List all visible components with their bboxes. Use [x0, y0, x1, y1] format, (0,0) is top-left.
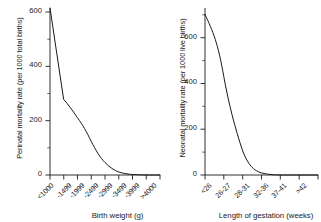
- data-line-perinatal-mortality: [50, 8, 160, 175]
- y-tick-label-left: 400: [22, 60, 42, 69]
- y-tick-label-left: 200: [22, 115, 42, 124]
- y-tick-label-right: 600: [177, 32, 197, 41]
- chart-panel-gestation: Neonatal mortality rate (per 1000 live b…: [163, 0, 321, 222]
- y-tick-label-left: 600: [22, 6, 42, 15]
- data-line-neonatal-mortality: [205, 15, 318, 176]
- y-tick-label-left: 0: [22, 169, 42, 178]
- y-tick-label-right: 0: [177, 169, 197, 178]
- x-axis-label-right: Length of gestation (weeks): [163, 211, 321, 220]
- chart-panel-birth-weight: Perinatal mortality rate (per 1000 total…: [0, 0, 163, 222]
- y-tick-label-right: 200: [177, 123, 197, 132]
- figure-container: Perinatal mortality rate (per 1000 total…: [0, 0, 321, 222]
- y-tick-label-right: 400: [177, 77, 197, 86]
